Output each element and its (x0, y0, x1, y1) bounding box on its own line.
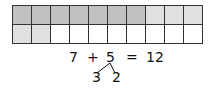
decomposition-left: 3 (92, 69, 101, 85)
decomposition-lines (0, 0, 211, 93)
decomposition-right: 2 (112, 69, 121, 85)
